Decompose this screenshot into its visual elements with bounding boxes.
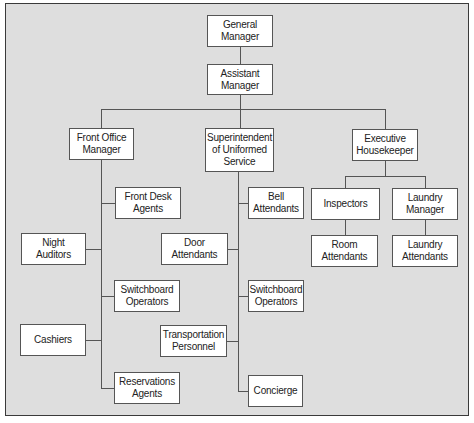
node-executive-housekeeper: Executive Housekeeper: [352, 129, 418, 161]
node-superintendent-uniformed-service: Superintendent of Uniformed Service: [205, 128, 274, 172]
node-fo-switchboard-operators: Switchboard Operators: [114, 280, 180, 312]
node-reservations-agents: Reservations Agents: [114, 372, 180, 404]
node-front-desk-agents: Front Desk Agents: [115, 187, 181, 219]
node-laundry-attendants: Laundry Attendants: [392, 235, 458, 267]
connector-insp-roa: [345, 220, 346, 235]
node-inspectors: Inspectors: [311, 188, 380, 220]
connector-fom-spine: [101, 160, 102, 388]
node-transportation-personnel: Transportation Personnel: [160, 325, 227, 357]
connector-swo1: [101, 296, 114, 297]
connector-swo2: [238, 296, 248, 297]
connector-con: [238, 391, 248, 392]
node-room-attendants: Room Attendants: [311, 235, 378, 267]
connector-eh-bar: [345, 176, 426, 177]
connector-to-lm: [425, 176, 426, 188]
connector-gm-am: [240, 47, 241, 64]
connector-sus-spine: [238, 172, 239, 391]
connector-cash: [86, 340, 101, 341]
connector-to-eh: [385, 109, 386, 129]
node-assistant-manager: Assistant Manager: [207, 64, 273, 95]
node-night-auditors: Night Auditors: [21, 233, 86, 265]
connector-ba: [238, 203, 248, 204]
node-cashiers: Cashiers: [20, 324, 86, 356]
connector-am-down: [240, 95, 241, 128]
connector-to-fom: [101, 109, 102, 128]
connector-eh-down: [385, 161, 386, 176]
node-laundry-manager: Laundry Manager: [392, 188, 458, 220]
connector-level2-bar: [101, 109, 386, 110]
node-us-switchboard-operators: Switchboard Operators: [248, 280, 304, 312]
connector-fda: [101, 203, 115, 204]
connector-lm-la: [425, 220, 426, 235]
connector-tp: [227, 341, 238, 342]
node-front-office-manager: Front Office Manager: [69, 128, 134, 160]
connector-ra: [101, 388, 114, 389]
node-bell-attendants: Bell Attendants: [248, 187, 304, 219]
node-door-attendants: Door Attendants: [161, 233, 228, 265]
node-general-manager: General Manager: [207, 15, 273, 47]
node-concierge: Concierge: [248, 375, 303, 407]
connector-da: [228, 249, 238, 250]
connector-na: [86, 249, 101, 250]
connector-to-insp: [345, 176, 346, 188]
